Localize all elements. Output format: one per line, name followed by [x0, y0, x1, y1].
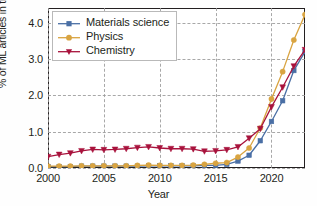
x-axis-tick-label: 2010: [148, 172, 172, 184]
legend-item[interactable]: Physics: [57, 29, 169, 43]
y-axis-tick-label: 3.0: [28, 53, 43, 65]
y-axis-tick-label: 1.0: [28, 126, 43, 138]
x-axis-title: Year: [0, 188, 317, 200]
legend-label: Physics: [86, 30, 123, 42]
circle-marker-icon: [57, 30, 81, 42]
chart-figure: 0.01.02.03.04.0 20002005201020152020 % o…: [0, 0, 317, 206]
legend-label: Materials science: [86, 16, 169, 28]
legend-label: Chemistry: [86, 44, 135, 56]
legend-item[interactable]: Materials science: [57, 15, 169, 29]
y-axis-title: % of ML articles in the field: [0, 0, 8, 88]
square-marker-icon: [57, 16, 81, 28]
x-axis-tick-label: 2020: [260, 172, 284, 184]
chart-legend: Materials sciencePhysicsChemistry: [52, 11, 177, 61]
gridline-horizontal: [48, 168, 305, 169]
x-axis-tick-label: 2015: [204, 172, 228, 184]
triangle-down-marker-icon: [57, 44, 81, 56]
legend-item[interactable]: Chemistry: [57, 43, 169, 57]
y-axis-tick-label: 2.0: [28, 89, 43, 101]
y-axis-tick-label: 4.0: [28, 17, 43, 29]
x-axis-tick-label: 2005: [92, 172, 116, 184]
x-axis-tick-label: 2000: [36, 172, 60, 184]
